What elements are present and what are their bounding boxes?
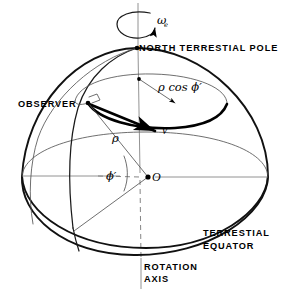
velocity-label: v	[162, 123, 168, 137]
equator-label-line1: TERRESTIAL	[203, 228, 270, 238]
rotation-axis-lower-dashed	[140, 180, 141, 258]
latitude-circle-center-dot	[137, 77, 141, 81]
rho-label: ρ	[111, 131, 119, 145]
sphere-outline-group	[22, 48, 268, 255]
rotation-axis-middle	[138, 48, 140, 173]
phi-prime-label: ϕ′	[106, 169, 117, 183]
equator-label-line2: EQUATOR	[203, 241, 254, 251]
sphere-limb	[22, 48, 268, 255]
axis-label-line2: AXIS	[144, 274, 169, 284]
rotation-arrow-group	[117, 12, 155, 38]
velocity-vector-group	[89, 104, 155, 131]
north-pole-label: NORTH TERRESTIAL POLE	[139, 43, 278, 53]
latitude-circle-back-arc	[75, 74, 227, 104]
observer-meridian-arc-lower	[73, 228, 79, 251]
equator-back-arc	[22, 132, 268, 176]
phi-angle-arc	[124, 156, 127, 191]
right-angle-square	[89, 94, 100, 103]
lower-radius-group	[74, 177, 148, 231]
axis-label-line1: ROTATION	[144, 262, 198, 272]
observer-point	[86, 101, 91, 106]
lower-radius-line	[74, 177, 148, 231]
sphere-diagram: ω e	[0, 0, 288, 289]
observer-meridian-group	[70, 48, 137, 251]
rho-cos-phi-label: ρ cos ϕ′	[157, 80, 202, 94]
origin-label: O	[152, 170, 161, 184]
rotation-arrow-arc	[117, 12, 155, 38]
figure-canvas: ω e	[0, 0, 288, 289]
left-meridian-group	[30, 48, 137, 224]
observer-label: OBSERVER	[18, 99, 77, 109]
velocity-arrow	[89, 104, 155, 131]
right-angle-marker	[89, 94, 100, 103]
latitude-circle-front-arc	[88, 103, 227, 128]
left-meridian-arc	[30, 48, 137, 224]
latitude-angle-group	[124, 156, 127, 191]
omega-subscript-label: e	[164, 21, 168, 29]
origin-point	[145, 174, 150, 179]
